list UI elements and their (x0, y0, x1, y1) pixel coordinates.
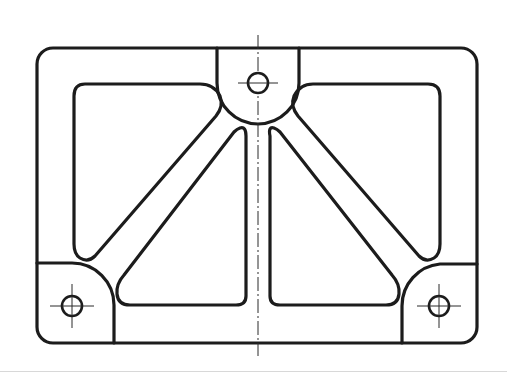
page-edge-line (0, 371, 507, 372)
pocket-lower-right (270, 128, 400, 305)
pocket-upper-left (74, 84, 221, 260)
bottom-right-bolt-hole (417, 284, 461, 328)
bottom-left-bolt-hole (50, 284, 94, 328)
top-bolt-hole (238, 73, 278, 93)
pocket-upper-right (293, 84, 440, 260)
technical-drawing (0, 0, 507, 379)
